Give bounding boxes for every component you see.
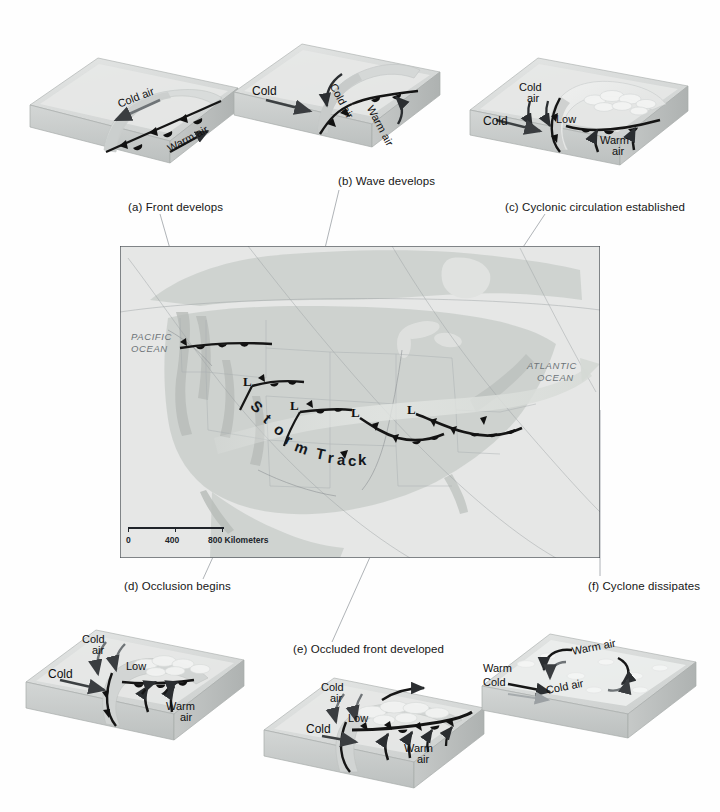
caption-panel-c: (c) Cyclonic circulation established xyxy=(505,201,685,213)
scale-label-800: 800 Kilometers xyxy=(208,535,268,545)
panel-d-block xyxy=(26,630,244,740)
caption-panel-e: (e) Occluded front developed xyxy=(293,643,444,655)
panel-e-block xyxy=(264,678,484,788)
scale-tick-0 xyxy=(128,527,129,532)
panel-c-block xyxy=(470,58,688,165)
label-c-warm-2: air xyxy=(612,145,624,157)
cyclone-lifecycle-figure: (a) Front develops (b) Wave develops (c)… xyxy=(0,0,720,812)
caption-panel-b: (b) Wave develops xyxy=(338,175,435,187)
map-low-mark-1: L xyxy=(243,374,252,390)
label-f-cold: Cold xyxy=(483,676,506,688)
label-c-low: Low xyxy=(556,113,576,125)
scale-label-400: 400 xyxy=(165,535,179,545)
map-artwork xyxy=(120,246,600,558)
label-b-cold: Cold xyxy=(252,84,277,98)
map-label-pacific-ocean-line2: OCEAN xyxy=(131,343,168,354)
storm-track-letter-9: k xyxy=(358,451,366,468)
storm-track-letter-7: a xyxy=(337,451,346,468)
figure-artwork xyxy=(0,0,720,812)
label-c-cold: Cold xyxy=(483,114,508,128)
caption-panel-a: (a) Front develops xyxy=(128,201,223,213)
map-low-mark-4: L xyxy=(407,402,416,418)
label-f-warm: Warm xyxy=(483,662,512,674)
label-d-cold-air-2: air xyxy=(92,644,104,656)
map-label-atlantic-ocean-line1: ATLANTIC xyxy=(527,360,577,371)
label-c-cold-air-2: air xyxy=(527,92,539,104)
label-e-warm-2: air xyxy=(417,753,429,765)
map-label-pacific-ocean-line1: PACIFIC xyxy=(131,331,172,342)
map-low-mark-3: L xyxy=(351,405,360,421)
map-label-atlantic-ocean-line2: OCEAN xyxy=(537,372,574,383)
label-d-cold: Cold xyxy=(48,667,73,681)
label-e-cold-air-2: air xyxy=(330,692,342,704)
scale-tick-400 xyxy=(175,527,176,532)
map-low-mark-2: L xyxy=(290,398,299,414)
scale-tick-800 xyxy=(222,527,223,532)
label-d-low: Low xyxy=(126,660,146,672)
caption-panel-d: (d) Occlusion begins xyxy=(124,580,231,592)
storm-track-letter-8: c xyxy=(348,452,356,469)
label-d-warm-2: air xyxy=(180,711,192,723)
scale-label-0: 0 xyxy=(126,535,131,545)
panel-a-block xyxy=(30,58,238,163)
caption-panel-f: (f) Cyclone dissipates xyxy=(588,580,700,592)
label-e-low: Low xyxy=(348,712,368,724)
label-e-cold: Cold xyxy=(306,722,331,736)
